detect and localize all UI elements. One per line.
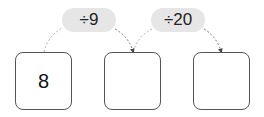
arrow-1-in: [44, 28, 62, 52]
operation-pill-divide-9: ÷9: [62, 8, 116, 32]
operation-label: ÷20: [164, 10, 192, 30]
arrow-2-out: [204, 29, 221, 51]
answer-box-2[interactable]: [104, 52, 161, 110]
arrow-1-out: [115, 29, 133, 51]
operation-label: ÷9: [80, 10, 99, 30]
value-box-1: 8: [15, 52, 72, 110]
arrow-2-in: [134, 29, 152, 50]
box-value: 8: [38, 70, 49, 93]
answer-box-3[interactable]: [193, 52, 250, 110]
operation-pill-divide-20: ÷20: [151, 8, 205, 32]
